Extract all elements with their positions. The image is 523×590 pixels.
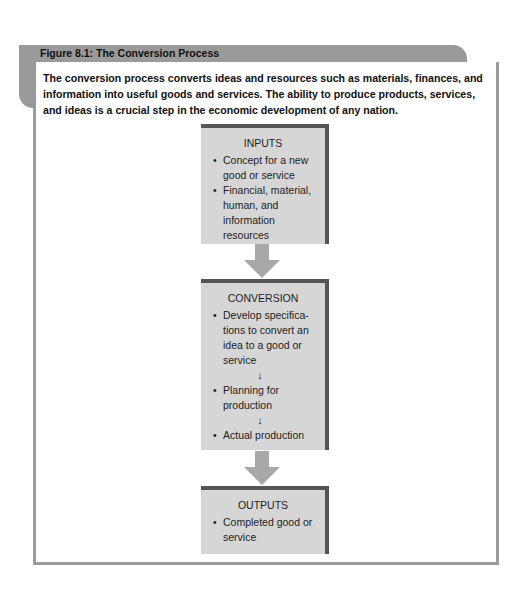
down-arrow-icon: [244, 451, 280, 485]
outputs-item: Completed good or service: [213, 515, 319, 545]
figure-title: Figure 8.1: The Conversion Process: [40, 46, 219, 60]
outputs-title: OUTPUTS: [201, 498, 325, 513]
conversion-item: Actual production: [213, 428, 319, 443]
step-arrow-icon: ↓: [213, 413, 319, 428]
outputs-box: OUTPUTS Completed good or service: [201, 486, 329, 554]
conversion-item: Planning for production: [213, 383, 319, 413]
figure-caption: The conversion process converts ideas an…: [43, 70, 493, 118]
inputs-item: Concept for a new good or service: [213, 153, 319, 183]
inputs-item: Financial, material, human, and informat…: [213, 183, 319, 243]
flow-arrow-inputs-to-conversion: [242, 244, 282, 279]
inputs-list: Concept for a new good or service Financ…: [201, 153, 325, 243]
inputs-title: INPUTS: [201, 136, 325, 151]
inputs-box: INPUTS Concept for a new good or service…: [201, 124, 329, 244]
conversion-box: CONVERSION Develop specifica-tions to co…: [201, 279, 329, 450]
conversion-item: Develop specifica-tions to convert an id…: [213, 308, 319, 368]
outputs-list: Completed good or service: [201, 515, 325, 545]
flow-arrow-conversion-to-outputs: [242, 451, 282, 486]
down-arrow-icon: [244, 244, 280, 278]
conversion-list: Develop specifica-tions to convert an id…: [201, 308, 325, 443]
step-arrow-icon: ↓: [213, 368, 319, 383]
conversion-title: CONVERSION: [201, 291, 325, 306]
